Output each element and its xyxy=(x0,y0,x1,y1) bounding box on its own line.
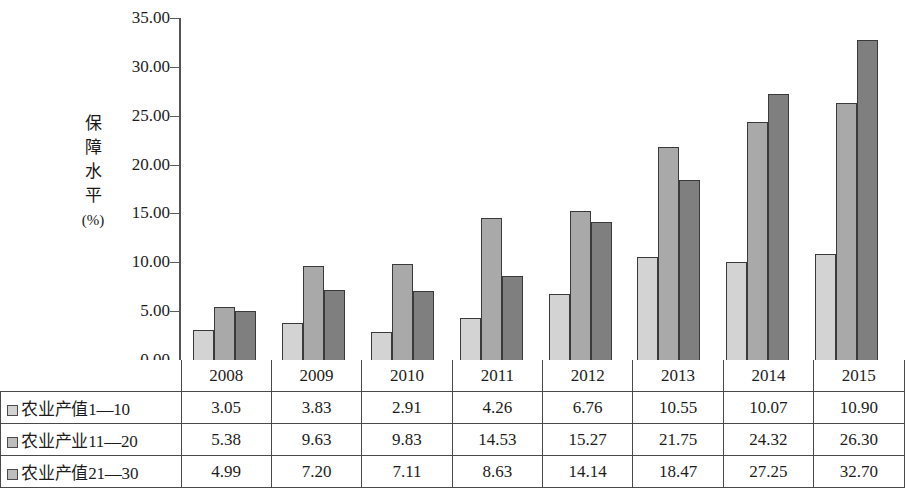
y-axis-title: 保 障 水 平 (%) xyxy=(76,112,110,232)
bar-series1-2011[interactable] xyxy=(460,318,481,360)
y-axis-tick-mark xyxy=(170,165,179,166)
bar-group-2014 xyxy=(714,18,803,360)
bar-series3-2015[interactable] xyxy=(857,40,878,360)
bar-series1-2010[interactable] xyxy=(371,332,392,360)
table-cell: 24.32 xyxy=(723,424,813,456)
y-axis-tick-label: 35.00 xyxy=(108,9,170,26)
y-axis-tick-label: 10.00 xyxy=(108,253,170,270)
bar-series2-2008[interactable] xyxy=(214,307,235,360)
y-axis-tick-label: 5.00 xyxy=(108,302,170,319)
table-row: 农业产值21—304.997.207.118.6314.1418.4727.25… xyxy=(1,456,905,488)
bar-group-2013 xyxy=(625,18,714,360)
table-cell: 14.53 xyxy=(452,424,542,456)
bar-series1-2015[interactable] xyxy=(815,254,836,361)
legend-swatch-series-2 xyxy=(7,437,18,448)
bar-group-bars xyxy=(282,18,345,360)
bar-series3-2012[interactable] xyxy=(591,222,612,360)
table-cell: 9.83 xyxy=(362,424,452,456)
y-axis-tick-label: 25.00 xyxy=(108,107,170,124)
table-cell: 6.76 xyxy=(543,392,633,424)
y-axis-tick-label: 15.00 xyxy=(108,204,170,221)
y-axis-tick-label: 30.00 xyxy=(108,58,170,75)
table-cell: 27.25 xyxy=(723,456,813,488)
legend-swatch-series-3 xyxy=(7,469,18,480)
table-cell: 21.75 xyxy=(633,424,723,456)
bar-group-bars xyxy=(815,18,878,360)
y-axis-title-char-1: 保 xyxy=(76,112,110,136)
bar-group-bars xyxy=(371,18,434,360)
table-column-header-2010: 2010 xyxy=(362,360,452,392)
table-cell: 32.70 xyxy=(814,456,904,488)
y-axis-tick-mark xyxy=(170,116,179,117)
y-axis-title-char-3: 水 xyxy=(76,160,110,184)
table-row: 农业产业11—205.389.639.8314.5315.2721.7524.3… xyxy=(1,424,905,456)
y-axis-title-char-2: 障 xyxy=(76,136,110,160)
table-cell: 18.47 xyxy=(633,456,723,488)
bar-series1-2012[interactable] xyxy=(549,294,570,360)
table-cell: 3.05 xyxy=(181,392,271,424)
legend-row-2[interactable]: 农业产业11—20 xyxy=(1,424,182,456)
table-column-header-2008: 2008 xyxy=(181,360,271,392)
y-axis-tick-mark xyxy=(170,67,179,68)
bar-series3-2009[interactable] xyxy=(324,290,345,360)
bar-group-2010 xyxy=(359,18,448,360)
table-header-row: 20082009201020112012201320142015 xyxy=(1,360,905,392)
legend-row-3[interactable]: 农业产值21—30 xyxy=(1,456,182,488)
bar-series2-2013[interactable] xyxy=(658,147,679,360)
table-cell: 10.55 xyxy=(633,392,723,424)
bar-series2-2015[interactable] xyxy=(836,103,857,360)
bar-series3-2013[interactable] xyxy=(679,180,700,360)
table-cell: 8.63 xyxy=(452,456,542,488)
y-axis-tick-mark xyxy=(170,311,179,312)
table-cell: 9.63 xyxy=(271,424,361,456)
y-axis-tick-mark xyxy=(170,262,179,263)
table-cell: 26.30 xyxy=(814,424,904,456)
y-axis-title-unit: (%) xyxy=(76,208,110,232)
bar-series2-2010[interactable] xyxy=(392,264,413,360)
table-cell: 10.07 xyxy=(723,392,813,424)
bar-series2-2011[interactable] xyxy=(481,218,502,360)
table-cell: 7.20 xyxy=(271,456,361,488)
table-column-header-2013: 2013 xyxy=(633,360,723,392)
y-axis-tick-label: 20.00 xyxy=(108,156,170,173)
bar-chart: 保 障 水 平 (%) 35.0030.0025.0020.0015.0010.… xyxy=(0,0,895,372)
bar-series1-2014[interactable] xyxy=(726,262,747,360)
table-cell: 14.14 xyxy=(543,456,633,488)
bar-group-bars xyxy=(193,18,256,360)
bar-series2-2009[interactable] xyxy=(303,266,324,360)
bar-group-2008 xyxy=(181,18,270,360)
bar-group-bars xyxy=(549,18,612,360)
table-column-header-2012: 2012 xyxy=(543,360,633,392)
table-column-header-2011: 2011 xyxy=(452,360,542,392)
bar-series3-2014[interactable] xyxy=(768,94,789,360)
bar-group-2011 xyxy=(448,18,537,360)
legend-row-1[interactable]: 农业产值1—10 xyxy=(1,392,182,424)
table-column-header-2014: 2014 xyxy=(723,360,813,392)
bar-group-bars xyxy=(460,18,523,360)
data-table: 20082009201020112012201320142015农业产值1—10… xyxy=(0,360,905,488)
table-corner-cell xyxy=(1,360,182,392)
bar-series1-2009[interactable] xyxy=(282,323,303,360)
bar-series1-2013[interactable] xyxy=(637,257,658,360)
y-axis-title-char-4: 平 xyxy=(76,184,110,208)
table-cell: 5.38 xyxy=(181,424,271,456)
bar-series3-2011[interactable] xyxy=(502,276,523,360)
y-axis-tick-mark xyxy=(170,213,179,214)
bar-group-2009 xyxy=(270,18,359,360)
table-cell: 2.91 xyxy=(362,392,452,424)
bar-group-bars xyxy=(637,18,700,360)
bar-series3-2008[interactable] xyxy=(235,311,256,360)
table-cell: 4.26 xyxy=(452,392,542,424)
table-cell: 15.27 xyxy=(543,424,633,456)
legend-label-series-1: 农业产值1—10 xyxy=(21,400,130,419)
bar-series1-2008[interactable] xyxy=(193,330,214,360)
y-axis-tick-mark xyxy=(170,18,179,19)
bar-series2-2012[interactable] xyxy=(570,211,591,360)
table-cell: 3.83 xyxy=(271,392,361,424)
legend-label-series-3: 农业产值21—30 xyxy=(21,464,138,483)
bar-series3-2010[interactable] xyxy=(413,291,434,360)
bar-series2-2014[interactable] xyxy=(747,122,768,360)
legend-swatch-series-1 xyxy=(7,405,18,416)
bar-group-bars xyxy=(726,18,789,360)
